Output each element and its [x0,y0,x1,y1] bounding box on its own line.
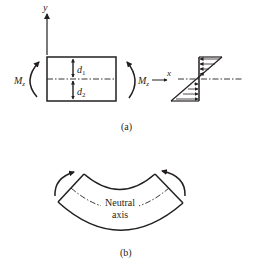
neutral-axis-label: Neutral [105,197,135,208]
left-moment-arrow-b [55,172,74,196]
right-moment-arrow: Mz [127,62,149,98]
y-axis: y [42,2,48,55]
bending-stress-figure: y d1 d2 Mz Mz x [0,0,260,265]
right-moment-label: Mz [137,75,149,88]
panel-b: Neutral axis (b) [55,171,185,259]
caption-b: (b) [120,247,132,259]
left-moment-arrow: Mz [13,62,39,97]
beam-cross-section: d1 d2 [47,57,116,101]
neutral-axis-label-line2: axis [112,209,128,220]
d1-label: d1 [77,64,86,77]
left-moment-label: Mz [13,75,25,88]
caption-a: (a) [121,121,132,133]
x-axis-label: x [166,68,171,78]
y-axis-label: y [42,2,48,13]
panel-a: y d1 d2 Mz Mz x [13,2,242,133]
d2-label: d2 [77,86,86,99]
bent-beam: Neutral axis [58,174,183,230]
